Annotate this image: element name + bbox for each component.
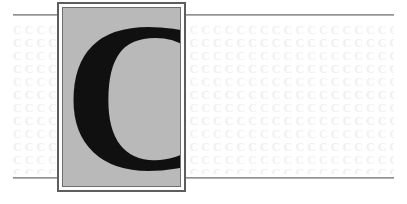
drop-cap-panel: C	[62, 7, 181, 187]
horizontal-rule-top-right	[186, 14, 394, 16]
drop-cap-frame: C	[57, 2, 186, 192]
chapter-opener-page: CCCCCCCCCCCCCCCCCCCCCCCCCCCCCCCCCCCCCCCC…	[0, 0, 407, 204]
horizontal-rule-bottom-right	[186, 177, 394, 179]
horizontal-rule-bottom-left	[13, 177, 58, 179]
horizontal-rule-top-left	[13, 14, 58, 16]
drop-cap-letter: C	[63, 15, 180, 178]
